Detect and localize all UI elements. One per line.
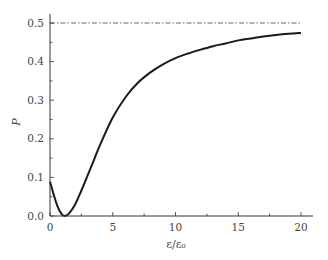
x-tick-label: 10 [169, 221, 182, 233]
y-axis-title: P [10, 118, 23, 127]
x-tick-label: 20 [294, 221, 307, 233]
y-tick-label: 0.1 [27, 171, 44, 183]
y-tick-label: 0.4 [27, 55, 44, 67]
y-tick-label: 0.3 [27, 94, 44, 106]
y-tick-label: 0.2 [27, 132, 44, 144]
y-tick-label: 0.0 [27, 210, 44, 222]
chart: 051015200.00.10.20.30.40.5 ε/ε₀ P [0, 0, 328, 260]
data-line [50, 33, 301, 216]
axes: 051015200.00.10.20.30.40.5 [27, 14, 313, 233]
y-tick-label: 0.5 [27, 17, 44, 29]
x-tick-label: 5 [109, 221, 116, 233]
x-tick-label: 15 [232, 221, 245, 233]
x-axis-title: ε/ε₀ [166, 238, 186, 251]
plot-area [50, 23, 301, 216]
x-tick-label: 0 [47, 221, 54, 233]
